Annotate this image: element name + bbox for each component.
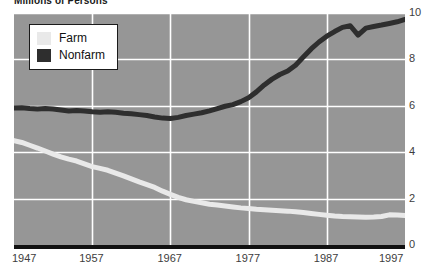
y-tick-label: 4: [409, 146, 431, 157]
x-tick-label: 1957: [79, 252, 103, 264]
y-tick-label: 6: [409, 100, 431, 111]
x-axis-baseline: [14, 245, 405, 249]
x-tick-label: 1947: [12, 252, 36, 264]
legend-item-nonfarm: Nonfarm: [37, 47, 105, 64]
chart-container: Millions of Persons 0246810 194719571967…: [0, 0, 432, 271]
x-tick-label: 1977: [236, 252, 260, 264]
y-tick-label: 0: [409, 239, 431, 250]
legend-label-nonfarm: Nonfarm: [59, 49, 105, 62]
x-tick-label: 1997: [379, 252, 403, 264]
legend-label-farm: Farm: [59, 32, 87, 45]
legend-swatch-nonfarm: [37, 49, 51, 62]
y-tick-label: 8: [409, 53, 431, 64]
y-tick-label: 2: [409, 193, 431, 204]
y-tick-label: 10: [409, 7, 431, 18]
x-tick-label: 1987: [314, 252, 338, 264]
legend-item-farm: Farm: [37, 30, 105, 47]
legend-swatch-farm: [37, 32, 51, 45]
x-tick-label: 1967: [157, 252, 181, 264]
chart-legend: Farm Nonfarm: [29, 24, 118, 70]
page-title: Millions of Persons: [14, 0, 108, 7]
